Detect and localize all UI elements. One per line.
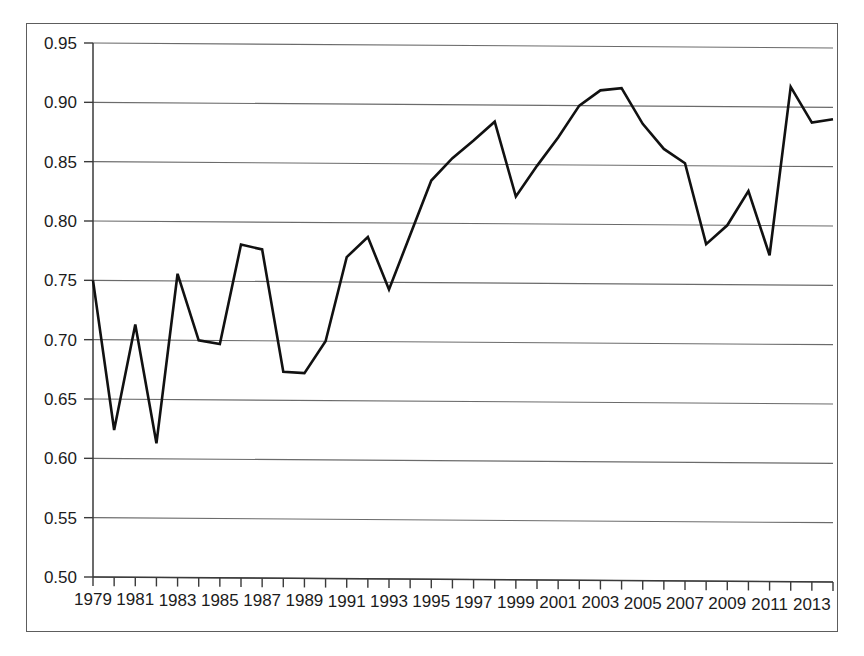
- x-axis-tick-label: 2013: [793, 595, 831, 614]
- y-axis-tick-label: 0.80: [44, 212, 77, 231]
- gridline: [93, 221, 833, 226]
- y-axis-tick-label: 0.95: [44, 34, 77, 53]
- x-axis-tick-label: 2003: [582, 593, 620, 612]
- gridlines-group: [93, 43, 833, 582]
- data-series-line: [93, 87, 833, 443]
- gridline: [93, 399, 833, 404]
- y-axis-tick-label: 0.60: [44, 449, 77, 468]
- x-axis-tick-label: 2011: [751, 595, 788, 614]
- y-axis-tick-label: 0.70: [44, 331, 77, 350]
- y-axis-tick-label: 0.55: [44, 509, 77, 528]
- x-axis-tick-label: 1981: [116, 590, 154, 609]
- gridline: [93, 102, 833, 107]
- x-axis-tick-label: 2005: [624, 594, 662, 613]
- y-axis-tick-label: 0.75: [44, 271, 77, 290]
- gridline: [93, 43, 833, 48]
- x-axis-tick-label: 1983: [159, 591, 197, 610]
- gridline: [93, 280, 833, 285]
- x-axis-tick-label: 1979: [74, 590, 112, 609]
- x-axis-tick-label: 1993: [370, 592, 408, 611]
- x-axis-tick-label: 2001: [539, 593, 577, 612]
- y-axis-tick-label: 0.65: [44, 390, 77, 409]
- gridline: [93, 458, 833, 463]
- y-axis-tick-label: 0.50: [44, 568, 77, 587]
- y-axis-labels-group: 0.500.550.600.650.700.750.800.850.900.95: [44, 34, 77, 587]
- chart-figure: 0.500.550.600.650.700.750.800.850.900.95…: [0, 0, 864, 656]
- x-axis-tick-label: 2007: [666, 594, 704, 613]
- y-axis-ticks-group: [84, 43, 93, 577]
- x-axis-tick-label: 1995: [412, 592, 450, 611]
- x-axis-labels-group: 1979198119831985198719891991199319951997…: [74, 590, 831, 614]
- x-axis-tick-label: 1999: [497, 593, 535, 612]
- gridline: [93, 518, 833, 523]
- line-chart: 0.500.550.600.650.700.750.800.850.900.95…: [0, 0, 864, 656]
- x-axis-tick-label: 1987: [243, 591, 281, 610]
- x-axis-line: [93, 577, 833, 582]
- x-axis-tick-label: 1991: [328, 592, 366, 611]
- x-axis-tick-label: 1985: [201, 591, 239, 610]
- y-axis-tick-label: 0.90: [44, 93, 77, 112]
- y-axis-tick-label: 0.85: [44, 153, 77, 172]
- x-axis-tick-label: 2009: [708, 594, 746, 613]
- x-axis-tick-label: 1997: [455, 593, 493, 612]
- gridline: [93, 162, 833, 167]
- x-axis-tick-label: 1989: [286, 591, 324, 610]
